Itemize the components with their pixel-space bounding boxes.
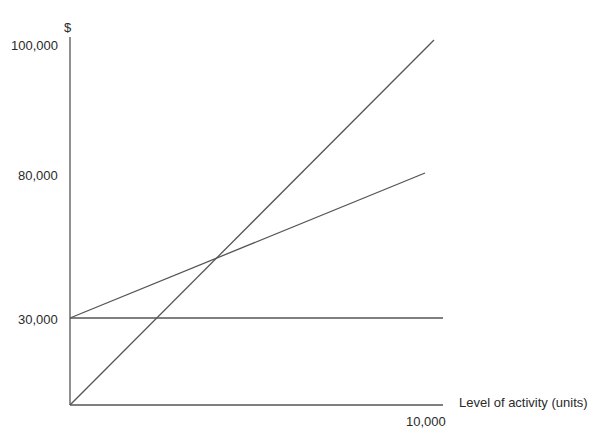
y-tick-30000: 30,000	[18, 313, 58, 326]
y-tick-100000: 100,000	[11, 39, 58, 52]
y-tick-80000: 80,000	[18, 169, 58, 182]
y-axis-unit-label: $	[64, 21, 71, 34]
chart-canvas	[0, 0, 602, 442]
x-axis-title: Level of activity (units)	[459, 396, 588, 409]
sales-revenue-line	[70, 40, 434, 405]
total-cost-line	[70, 173, 425, 318]
x-tick-10000: 10,000	[406, 415, 446, 428]
